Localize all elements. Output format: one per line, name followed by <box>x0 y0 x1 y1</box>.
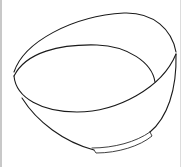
bowl-foot-lower <box>94 132 152 153</box>
bowl-body-left <box>22 98 94 150</box>
bowl-body-right <box>150 54 176 132</box>
bowl-rim-front <box>14 54 176 112</box>
bowl-rim-inner <box>14 45 155 82</box>
image-frame: Outline drawing of an empty tilted bowl … <box>0 0 181 167</box>
bowl-rim-outer <box>14 13 176 72</box>
bowl-foot-upper <box>92 132 150 148</box>
bowl-drawing <box>2 0 181 167</box>
